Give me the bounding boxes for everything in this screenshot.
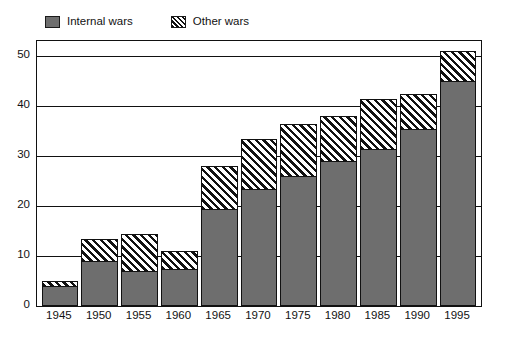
y-axis-label: 10 [17, 249, 30, 261]
plot-area [36, 40, 482, 307]
y-axis-label: 20 [17, 199, 30, 211]
x-axis-labels: 1945195019551960196519701975198019851990… [36, 310, 480, 322]
bar-stack [241, 139, 278, 307]
bar-group [400, 41, 437, 306]
bar-segment-other-wars [400, 94, 437, 129]
legend-item-internal-wars: Internal wars [45, 16, 133, 28]
bar-segment-internal-wars [320, 161, 357, 306]
bar-segment-other-wars [121, 234, 158, 272]
bar-group [201, 41, 238, 306]
legend-label: Other wars [193, 16, 249, 28]
x-axis-label: 1980 [319, 310, 356, 322]
bar-stack [400, 94, 437, 307]
x-axis-label: 1990 [399, 310, 436, 322]
legend-label: Internal wars [67, 16, 133, 28]
x-axis-label: 1975 [279, 310, 316, 322]
bar-segment-other-wars [320, 116, 357, 161]
x-axis-label: 1955 [120, 310, 157, 322]
bar-group [360, 41, 397, 306]
bar-stack [360, 99, 397, 307]
bar-segment-other-wars [440, 51, 477, 81]
bar-group [440, 41, 477, 306]
x-axis-label: 1945 [41, 310, 78, 322]
bar-segment-internal-wars [81, 261, 118, 306]
bar-stack [81, 239, 118, 307]
x-axis-label: 1995 [439, 310, 476, 322]
bar-segment-internal-wars [440, 81, 477, 306]
x-axis-label: 1965 [200, 310, 237, 322]
legend-item-other-wars: Other wars [171, 16, 249, 28]
y-axis-label: 40 [17, 99, 30, 111]
bar-segment-other-wars [201, 166, 238, 209]
bar-group [42, 41, 79, 306]
y-axis-label: 50 [17, 49, 30, 61]
x-axis-label: 1970 [240, 310, 277, 322]
bar-stack [42, 281, 79, 306]
chart-figure: Internal warsOther wars 01020304050 1945… [0, 0, 512, 338]
bar-segment-other-wars [161, 251, 198, 269]
bar-stack [280, 124, 317, 307]
bar-segment-internal-wars [42, 286, 79, 306]
bar-stack [121, 234, 158, 307]
bar-segment-internal-wars [280, 176, 317, 306]
x-axis-label: 1960 [160, 310, 197, 322]
x-axis-label: 1950 [80, 310, 117, 322]
bar-stack [320, 116, 357, 306]
bar-group [161, 41, 198, 306]
axis-tick [475, 306, 481, 307]
bar-group [121, 41, 158, 306]
bar-stack [201, 166, 238, 306]
diagonal-hatch-swatch-icon [171, 16, 186, 28]
y-axis-label: 0 [24, 299, 30, 311]
axis-tick [37, 306, 43, 307]
bar-segment-internal-wars [121, 271, 158, 306]
bar-segment-other-wars [360, 99, 397, 149]
chart-legend: Internal warsOther wars [45, 12, 249, 32]
bar-segment-other-wars [81, 239, 118, 262]
bar-group [241, 41, 278, 306]
x-axis-label: 1985 [359, 310, 396, 322]
bar-segment-internal-wars [161, 269, 198, 307]
bar-segment-internal-wars [400, 129, 437, 307]
bar-segment-other-wars [280, 124, 317, 177]
bars-layer [37, 41, 481, 306]
bar-segment-internal-wars [360, 149, 397, 307]
y-axis-label: 30 [17, 149, 30, 161]
bar-stack [161, 251, 198, 306]
bar-group [81, 41, 118, 306]
bar-segment-internal-wars [241, 189, 278, 307]
bar-stack [440, 51, 477, 306]
bar-segment-internal-wars [201, 209, 238, 307]
bar-group [280, 41, 317, 306]
bar-segment-other-wars [241, 139, 278, 189]
solid-gray-swatch-icon [45, 16, 60, 28]
bar-group [320, 41, 357, 306]
y-axis-labels: 01020304050 [0, 40, 30, 305]
